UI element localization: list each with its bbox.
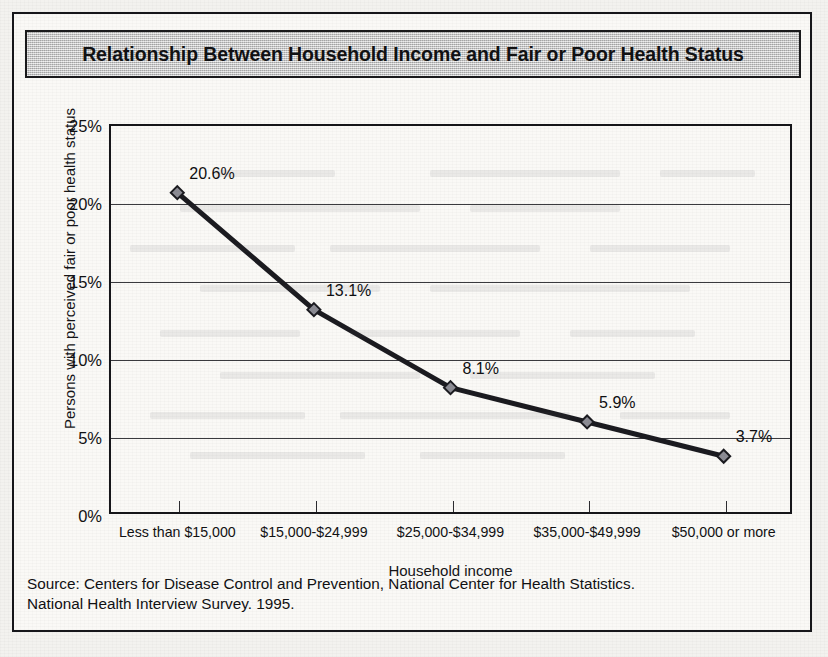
x-axis-tick-label: $50,000 or more [672,524,776,540]
gridline [111,360,790,361]
x-axis-tick-mark [179,501,180,512]
chart-title-banner: Relationship Between Household Income an… [25,30,801,78]
data-point-label: 3.7% [736,428,772,446]
page-title: Relationship Between Household Income an… [82,43,744,66]
chart-plot-region: Persons with perceived fair or poor heal… [14,80,810,632]
x-axis-tick-label: $25,000-$34,999 [397,524,504,540]
gridline [111,282,790,283]
source-line-1: Source: Centers for Disease Control and … [27,574,787,594]
source-note: Source: Centers for Disease Control and … [27,574,787,613]
y-axis-tick-label: 25% [69,117,102,136]
source-line-2: National Health Interview Survey. 1995. [27,594,787,614]
x-axis-tick-mark [453,501,454,512]
data-point-label: 13.1% [326,282,371,300]
figure-container: Relationship Between Household Income an… [12,12,812,632]
x-axis-tick-mark [316,501,317,512]
x-axis-tick-label: $35,000-$49,999 [533,524,640,540]
y-axis-tick-label: 0% [78,507,102,526]
data-point-label: 8.1% [463,360,499,378]
data-point-label: 20.6% [189,165,234,183]
x-axis-tick-mark [726,501,727,512]
x-axis-tick-label: Less than $15,000 [119,524,236,540]
y-axis-tick-label: 20% [69,195,102,214]
y-axis-tick-label: 10% [69,351,102,370]
gridline [111,204,790,205]
data-point-label: 5.9% [599,394,635,412]
x-axis-tick-label: $15,000-$24,999 [260,524,367,540]
gridline [111,438,790,439]
y-axis-tick-label: 5% [78,429,102,448]
x-axis-tick-mark [589,501,590,512]
y-axis-title: Persons with perceived fair or poor heal… [61,99,78,439]
y-axis-tick-label: 15% [69,273,102,292]
